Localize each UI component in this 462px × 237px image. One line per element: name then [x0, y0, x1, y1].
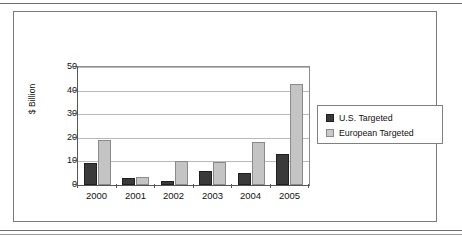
dark-square-swatch-icon: [326, 114, 334, 122]
gridline: [78, 161, 309, 162]
x-axis-label-group: 200020012002200320042005: [77, 190, 308, 204]
y-axis-title: $ Billion: [27, 64, 41, 134]
x-axis-tick-label: 2004: [231, 190, 270, 202]
x-axis-tick-label: 2002: [154, 190, 193, 202]
gridline: [78, 67, 309, 68]
x-axis-tick-mark: [231, 184, 232, 188]
y-axis-tick-group: 50403020100: [51, 66, 77, 186]
legend-label: European Targeted: [339, 128, 414, 138]
gridline: [78, 138, 309, 139]
legend-item-european-targeted: European Targeted: [326, 127, 414, 139]
light-square-swatch-icon: [326, 129, 334, 137]
bar: [213, 162, 226, 185]
x-axis-tick-label: 2003: [193, 190, 232, 202]
page-rule-bottom-secondary: [0, 234, 462, 235]
bar: [98, 140, 111, 185]
chart-legend: U.S. Targeted European Targeted: [317, 105, 443, 144]
x-axis-tick-mark: [308, 184, 309, 188]
x-axis-tick-label: 2001: [116, 190, 155, 202]
x-axis-tick-mark: [270, 184, 271, 188]
figure-frame: $ Billion 50403020100 200020012002200320…: [13, 11, 437, 222]
bar: [199, 171, 212, 185]
legend-label: U.S. Targeted: [339, 113, 393, 123]
bar: [276, 154, 289, 185]
x-axis-tick-label: 2000: [77, 190, 116, 202]
x-axis-tick-mark: [116, 184, 117, 188]
x-axis-tick-group: [77, 184, 310, 189]
page-rule-bottom-primary: [0, 230, 462, 231]
bar: [84, 163, 97, 185]
bar: [175, 161, 188, 185]
page-rule-top: [0, 3, 462, 4]
legend-item-us-targeted: U.S. Targeted: [326, 112, 393, 124]
x-axis-tick-label: 2005: [270, 190, 309, 202]
gridline: [78, 114, 309, 115]
x-axis-tick-mark: [193, 184, 194, 188]
bar: [290, 84, 303, 185]
bar-chart: $ Billion 50403020100 200020012002200320…: [14, 12, 438, 223]
gridline: [78, 91, 309, 92]
plot-area: [77, 66, 310, 186]
bar: [252, 142, 265, 185]
x-axis-tick-mark: [77, 184, 78, 188]
x-axis-tick-mark: [154, 184, 155, 188]
